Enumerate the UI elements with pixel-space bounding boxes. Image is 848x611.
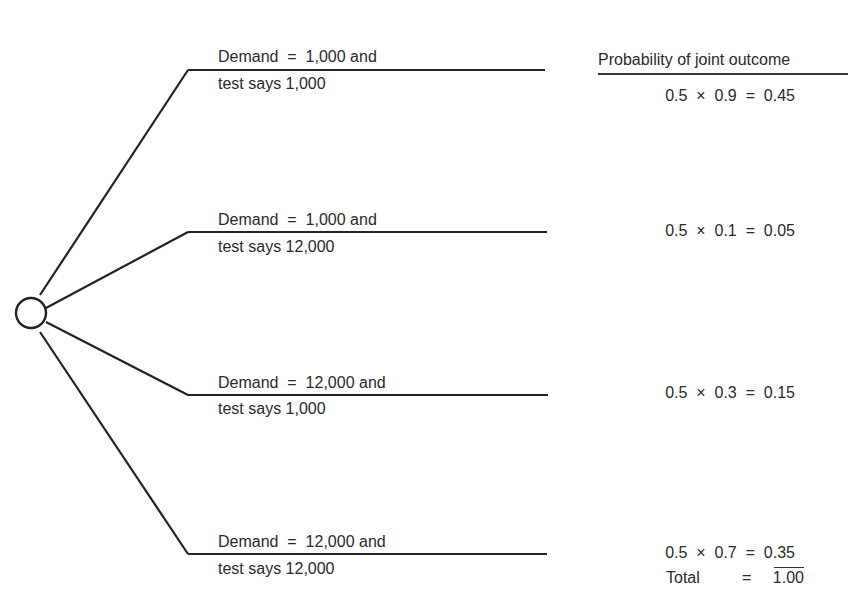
branch-1-label-line1: Demand = 1,000 and — [218, 47, 377, 67]
branch-3-label-line1: Demand = 12,000 and — [218, 373, 386, 393]
branch-3-probability: 0.5 × 0.3 = 0.15 — [665, 383, 795, 403]
branch-1-label-line2: test says 1,000 — [218, 74, 326, 94]
branch-2-probability: 0.5 × 0.1 = 0.05 — [665, 221, 795, 241]
total-label: Total — [666, 568, 700, 588]
branch-1-probability: 0.5 × 0.9 = 0.45 — [665, 86, 795, 106]
total-equals: = — [742, 568, 751, 588]
branch-4-label-line2: test says 12,000 — [218, 559, 335, 579]
branch-2-label-line2: test says 12,000 — [218, 237, 335, 257]
branch-3-label-line2: test says 1,000 — [218, 399, 326, 419]
branch-2-label-line1: Demand = 1,000 and — [218, 210, 377, 230]
total-value: 1.00 — [773, 568, 804, 588]
branch-4-label-line1: Demand = 12,000 and — [218, 532, 386, 552]
chance-node-icon — [16, 298, 46, 328]
probability-header: Probability of joint outcome — [598, 50, 790, 70]
branch-4-probability: 0.5 × 0.7 = 0.35 — [665, 543, 795, 563]
header-rule — [598, 73, 848, 75]
